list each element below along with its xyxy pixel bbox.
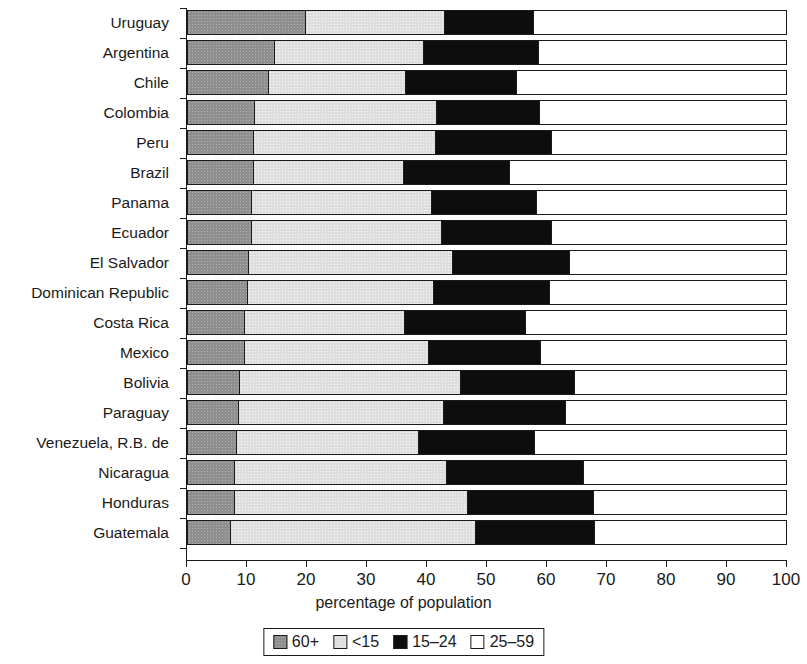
stacked-bar (187, 130, 787, 155)
category-label: Argentina (0, 38, 178, 68)
category-label: Honduras (0, 488, 178, 518)
bar-segment-25-59 (565, 401, 787, 424)
category-label: Mexico (0, 338, 178, 368)
x-axis-tick-label: 50 (477, 570, 496, 590)
bar-segment-15-24 (433, 281, 549, 304)
bar-row (187, 278, 787, 308)
y-axis-tick (180, 518, 187, 519)
category-label: Ecuador (0, 218, 178, 248)
category-label: Guatemala (0, 518, 178, 548)
x-axis-tick (186, 560, 187, 567)
category-label: Bolivia (0, 368, 178, 398)
legend-item: <15 (333, 633, 379, 651)
bar-segment-60- (188, 251, 248, 274)
bar-segment--15 (305, 11, 444, 34)
y-axis-tick (180, 38, 187, 39)
category-label: Uruguay (0, 8, 178, 38)
stacked-bar (187, 190, 787, 215)
y-axis-tick (180, 338, 187, 339)
bar-row (187, 188, 787, 218)
stacked-bar (187, 400, 787, 425)
bar-segment-25-59 (534, 431, 787, 454)
x-axis-tick (426, 560, 427, 567)
y-axis-tick (180, 368, 187, 369)
bar-segment--15 (253, 161, 403, 184)
bar-segment-60- (188, 401, 238, 424)
bar-segment--15 (268, 71, 405, 94)
y-axis-tick (180, 458, 187, 459)
bar-row (187, 368, 787, 398)
x-axis-tick-label: 20 (297, 570, 316, 590)
legend-item: 60+ (273, 633, 319, 651)
category-label: Dominican Republic (0, 278, 178, 308)
category-label: Nicaragua (0, 458, 178, 488)
legend-label: 60+ (292, 633, 319, 651)
legend-label: <15 (352, 633, 379, 651)
chart-legend: 60+<1515–2425–59 (263, 628, 544, 656)
bar-row (187, 428, 787, 458)
bar-segment-60- (188, 491, 234, 514)
bar-segment-60- (188, 371, 239, 394)
category-label: Brazil (0, 158, 178, 188)
bar-segment-60- (188, 311, 244, 334)
y-axis-tick (180, 248, 187, 249)
category-label: Chile (0, 68, 178, 98)
y-axis-tick (180, 8, 187, 9)
bar-segment--15 (274, 41, 423, 64)
stacked-bar (187, 280, 787, 305)
bar-row (187, 488, 787, 518)
stacked-bar (187, 370, 787, 395)
y-axis-tick (180, 218, 187, 219)
x-axis-tick (666, 560, 667, 567)
y-axis-tick (180, 68, 187, 69)
x-axis-tick (486, 560, 487, 567)
bar-segment--15 (239, 371, 460, 394)
stacked-bar (187, 10, 787, 35)
bar-segment--15 (236, 431, 418, 454)
bar-row (187, 98, 787, 128)
x-axis-tick-label: 40 (417, 570, 436, 590)
y-axis-tick (180, 308, 187, 309)
bar-rows (187, 8, 787, 548)
swatch-15-24-icon (393, 635, 407, 649)
y-axis-tick (180, 98, 187, 99)
stacked-bar (187, 160, 787, 185)
legend-item: 25–59 (471, 633, 535, 651)
legend-label: 15–24 (412, 633, 457, 651)
bar-segment-25-59 (533, 11, 787, 34)
bar-segment--15 (251, 221, 441, 244)
bar-segment--15 (230, 521, 475, 544)
bar-segment-60- (188, 41, 274, 64)
bar-segment--15 (244, 311, 404, 334)
category-label: Venezuela, R.B. de (0, 428, 178, 458)
category-axis-labels: UruguayArgentinaChileColombiaPeruBrazilP… (0, 8, 178, 548)
stacked-bar (187, 220, 787, 245)
bar-row (187, 518, 787, 548)
bar-segment-25-59 (574, 371, 787, 394)
bar-segment-60- (188, 191, 251, 214)
bar-segment-25-59 (539, 101, 787, 124)
swatch-25-59-icon (471, 635, 485, 649)
bar-segment--15 (247, 281, 433, 304)
x-axis-tick (786, 560, 787, 567)
bar-segment-25-59 (540, 341, 787, 364)
bar-segment-15-24 (418, 431, 534, 454)
bar-segment--15 (251, 191, 431, 214)
bar-row (187, 128, 787, 158)
x-axis-tick-label: 60 (537, 570, 556, 590)
bar-segment-15-24 (405, 71, 516, 94)
bar-segment-15-24 (441, 221, 551, 244)
bar-segment-60- (188, 521, 230, 544)
y-axis-tick (180, 398, 187, 399)
plot-area (187, 8, 787, 568)
stacked-bar (187, 310, 787, 335)
bar-segment-25-59 (583, 461, 787, 484)
bar-segment-25-59 (509, 161, 787, 184)
bar-segment--15 (253, 131, 435, 154)
x-axis-tick-label: 10 (237, 570, 256, 590)
x-axis-tick (366, 560, 367, 567)
bar-segment-15-24 (423, 41, 538, 64)
x-axis-tick (246, 560, 247, 567)
bar-segment-25-59 (516, 71, 787, 94)
bar-segment-15-24 (460, 371, 574, 394)
